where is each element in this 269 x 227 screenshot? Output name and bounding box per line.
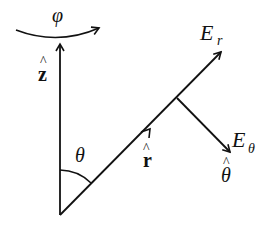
r-hat-label: r — [143, 149, 152, 171]
theta-angle-arc — [60, 170, 91, 183]
spherical-coordinates-diagram: φ ^ z E r θ ^ r E θ ^ θ — [0, 0, 269, 227]
theta-hat-label: θ — [221, 164, 231, 186]
phi-arc-arrow — [16, 28, 99, 38]
theta-angle-label: θ — [75, 144, 85, 166]
z-hat-label: z — [38, 63, 47, 85]
phi-label: φ — [52, 4, 63, 27]
e-theta-label: E — [231, 127, 246, 152]
r-vector-line — [60, 52, 221, 215]
e-r-label: E — [199, 20, 214, 45]
e-r-subscript: r — [217, 33, 223, 48]
e-theta-arrow — [177, 98, 230, 152]
e-theta-subscript: θ — [248, 141, 255, 156]
